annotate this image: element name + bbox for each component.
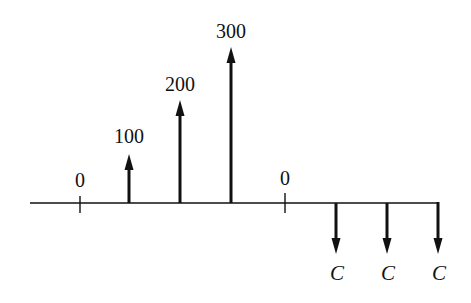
cash-flow-diagram: 0 0 100 200 300 C C C [0,0,471,303]
tick-0-second: 0 [280,167,290,213]
outflow-label: C [432,261,447,285]
inflow-label: 200 [165,73,195,95]
outflow-arrow-c2: C [381,203,396,285]
outflow-label: C [381,261,396,285]
tick-0-first: 0 [75,169,85,213]
inflow-label: 100 [114,125,144,147]
inflow-label: 300 [216,20,246,42]
inflow-arrow-100: 100 [114,125,144,203]
tick-label: 0 [280,167,290,189]
outflow-arrow-c1: C [330,203,345,285]
outflow-label: C [330,261,345,285]
inflow-arrow-300: 300 [216,20,246,203]
outflow-arrow-c3: C [432,202,447,285]
inflow-arrow-200: 200 [165,73,195,203]
tick-label: 0 [75,169,85,191]
